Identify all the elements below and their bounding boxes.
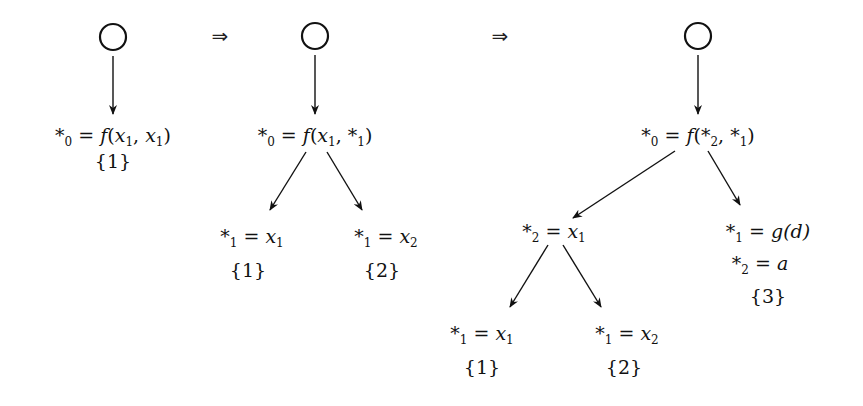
tree3-grandchild-left: *1 = x1 <box>450 322 514 351</box>
tree3-grandchild-right-set: {2} <box>606 356 642 378</box>
implies-arrow-1: ⇒ <box>212 26 229 46</box>
tree3-child-left: *2 = x1 <box>522 220 586 249</box>
implies-arrow-2: ⇒ <box>492 26 509 46</box>
tree3-grandchild-edge-arrow-2 <box>563 245 601 307</box>
tree3-child-right-line1: *1 = g(d) <box>726 220 810 249</box>
derivation-diagram <box>0 0 863 406</box>
tree3-edge-arrow-2 <box>708 151 740 205</box>
tree2-child-left-set: {1} <box>230 259 266 281</box>
tree2-root-circle-icon <box>302 23 328 49</box>
tree2-child-right-set: {2} <box>364 259 400 281</box>
tree2-root-formula: *0 = f(x1, *1) <box>258 124 373 153</box>
tree1-root-circle-icon <box>100 24 126 50</box>
tree3-grandchild-left-set: {1} <box>464 356 500 378</box>
tree3-root-circle-icon <box>685 23 711 49</box>
tree2-edge-arrow-1 <box>270 152 306 210</box>
tree3-grandchild-right: *1 = x2 <box>595 322 659 351</box>
tree3-edge-arrow-1 <box>573 151 675 218</box>
tree2-child-right: *1 = x2 <box>354 225 418 254</box>
tree3-child-right-set: {3} <box>750 285 786 307</box>
tree3-root-formula: *0 = f(*2, *1) <box>641 124 754 153</box>
tree2-child-left: *1 = x1 <box>220 225 284 254</box>
tree1-root-set: {1} <box>95 150 131 172</box>
tree3-grandchild-edge-arrow-1 <box>510 245 548 307</box>
tree1-root-formula: *0 = f(x1, x1) <box>55 124 171 153</box>
tree3-child-right-line2: *2 = a <box>732 252 788 281</box>
tree2-edge-arrow-2 <box>327 152 362 210</box>
